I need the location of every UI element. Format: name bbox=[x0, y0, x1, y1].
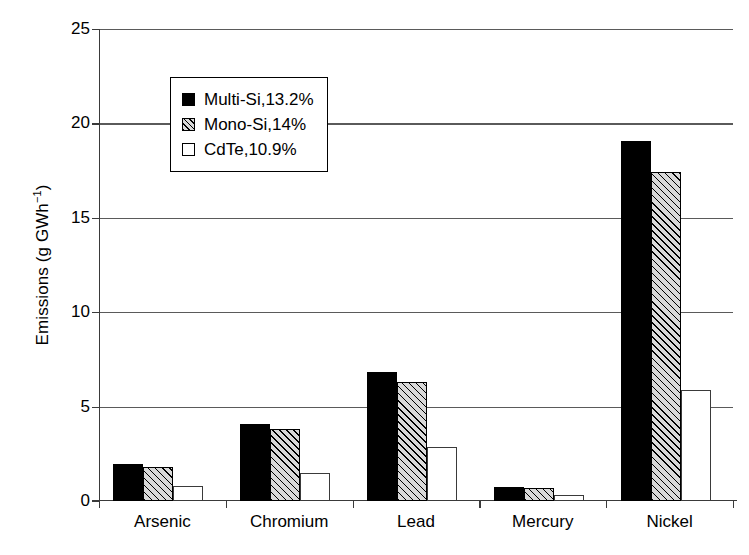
y-axis-tick-label: 20 bbox=[71, 113, 90, 133]
x-axis-tick-mark bbox=[733, 500, 734, 508]
y-axis-tick-mark bbox=[92, 218, 100, 219]
y-axis-tick-label: 0 bbox=[81, 491, 90, 511]
y-axis-title-exponent: −1 bbox=[31, 190, 43, 203]
bar bbox=[240, 424, 270, 501]
y-axis-title-text: Emissions (g GWh bbox=[33, 203, 52, 345]
chart-legend: Multi-Si,13.2% Mono-Si,14% CdTe,10.9% bbox=[170, 77, 328, 172]
x-axis-tick-mark bbox=[99, 500, 100, 508]
bar bbox=[554, 495, 584, 501]
legend-item-mono-si: Mono-Si,14% bbox=[182, 112, 314, 137]
bar bbox=[651, 172, 681, 501]
bar bbox=[113, 464, 143, 501]
x-axis-category-label: Arsenic bbox=[134, 512, 191, 532]
y-axis-tick-label: 5 bbox=[81, 397, 90, 417]
bar bbox=[397, 382, 427, 501]
y-axis-tick-mark bbox=[92, 407, 100, 408]
y-axis-title: Emissions (g GWh−1) bbox=[33, 115, 53, 415]
legend-item-label: Mono-Si,14% bbox=[204, 115, 306, 135]
empty-square-icon bbox=[182, 143, 195, 156]
x-axis-tick-mark bbox=[606, 500, 607, 508]
emissions-bar-chart: Emissions (g GWh−1) 0510152025 ArsenicCh… bbox=[0, 0, 749, 555]
gridline bbox=[99, 29, 733, 30]
bar bbox=[427, 447, 457, 501]
y-axis-tick-label: 25 bbox=[71, 19, 90, 39]
x-axis-category-label: Mercury bbox=[512, 512, 573, 532]
x-axis-category-label: Lead bbox=[397, 512, 435, 532]
legend-item-multi-si: Multi-Si,13.2% bbox=[182, 87, 314, 112]
bar bbox=[367, 372, 397, 501]
y-axis-title-tail: ) bbox=[33, 185, 52, 191]
bar bbox=[681, 390, 711, 501]
y-axis-tick-label: 15 bbox=[71, 208, 90, 228]
filled-black-square-icon bbox=[182, 93, 195, 106]
y-axis-tick-mark bbox=[92, 29, 100, 30]
y-axis-tick-mark bbox=[92, 123, 100, 124]
x-axis-tick-mark bbox=[226, 500, 227, 508]
bar bbox=[621, 141, 651, 501]
y-axis-line bbox=[99, 29, 100, 501]
x-axis-tick-mark bbox=[353, 500, 354, 508]
x-axis-tick-mark bbox=[479, 500, 480, 508]
legend-item-label: Multi-Si,13.2% bbox=[204, 90, 314, 110]
bar bbox=[270, 429, 300, 501]
hatched-square-icon bbox=[182, 118, 195, 131]
legend-item-label: CdTe,10.9% bbox=[204, 140, 297, 160]
bar bbox=[524, 488, 554, 501]
bar bbox=[173, 486, 203, 501]
legend-item-cdte: CdTe,10.9% bbox=[182, 137, 314, 162]
bar bbox=[494, 487, 524, 501]
y-axis-tick-label: 10 bbox=[71, 302, 90, 322]
x-axis-category-label: Chromium bbox=[250, 512, 328, 532]
bar bbox=[143, 467, 173, 501]
x-axis-category-label: Nickel bbox=[646, 512, 692, 532]
y-axis-tick-mark bbox=[92, 312, 100, 313]
bar bbox=[300, 473, 330, 501]
